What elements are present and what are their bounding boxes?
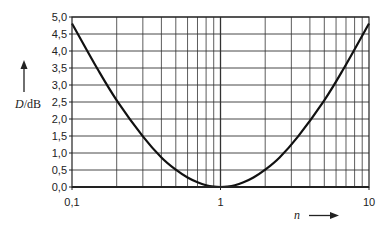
svg-text:D/dB: D/dB	[14, 97, 41, 111]
y-label-symbol: D	[14, 97, 24, 111]
x-tick-labels: 0,1110	[64, 187, 375, 208]
x-label-symbol: n	[294, 208, 300, 222]
y-tick-label: 0,0	[52, 181, 67, 193]
right-arrow-head-icon	[330, 212, 339, 219]
y-label-unit: /dB	[24, 97, 41, 111]
y-tick-label: 4,0	[52, 45, 67, 57]
x-tick-label: 0,1	[64, 196, 79, 208]
y-tick-label: 1,5	[52, 130, 67, 142]
x-tick-label: 1	[217, 196, 223, 208]
up-arrow-head-icon	[21, 60, 28, 69]
y-tick-label: 1,0	[52, 147, 67, 159]
y-tick-label: 3,0	[52, 79, 67, 91]
y-tick-label: 2,0	[52, 113, 67, 125]
y-tick-label: 5,0	[52, 11, 67, 23]
y-axis-label: D/dB	[14, 60, 41, 111]
chart: 0,00,51,01,52,02,53,03,54,04,55,0 0,1110…	[0, 0, 387, 231]
y-tick-label: 2,5	[52, 96, 67, 108]
y-tick-labels: 0,00,51,01,52,02,53,03,54,04,55,0	[52, 11, 72, 193]
y-tick-label: 4,5	[52, 28, 67, 40]
y-tick-label: 3,5	[52, 62, 67, 74]
y-tick-label: 0,5	[52, 164, 67, 176]
x-axis-label: n	[294, 208, 339, 222]
x-tick-label: 10	[363, 196, 375, 208]
